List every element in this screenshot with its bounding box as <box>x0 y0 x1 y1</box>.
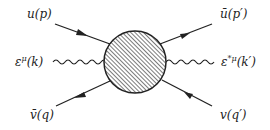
label-v-qprime: v(q′) <box>220 108 247 122</box>
label-eps-mu-k: εμ(k) <box>15 54 44 69</box>
fermion-line-bottom-left <box>56 81 110 106</box>
diagram-canvas: u(p) ū(p′) εμ(k) ε*μ(k′) v̄(q) v(q′) <box>0 0 270 130</box>
label-eps-star-mu-kprime: ε*μ(k′) <box>221 54 256 69</box>
label-vbar-q: v̄(q) <box>30 108 54 122</box>
fermion-line-top-left <box>55 24 110 44</box>
fermion-line-bottom-right <box>162 80 212 106</box>
photon-line-right <box>166 60 214 64</box>
fermion-line-top-right <box>160 24 212 44</box>
feynman-diagram: u(p) ū(p′) εμ(k) ε*μ(k′) v̄(q) v(q′) <box>0 0 270 130</box>
arrow-icon <box>180 33 190 39</box>
arrow-icon <box>74 92 86 98</box>
photon-line-left <box>53 60 107 64</box>
interaction-blob <box>104 31 166 93</box>
arrow-icon <box>76 29 88 36</box>
label-u-p: u(p) <box>27 7 52 21</box>
label-ubar-pprime: ū(p′) <box>220 7 248 21</box>
arrow-icon <box>184 92 193 99</box>
